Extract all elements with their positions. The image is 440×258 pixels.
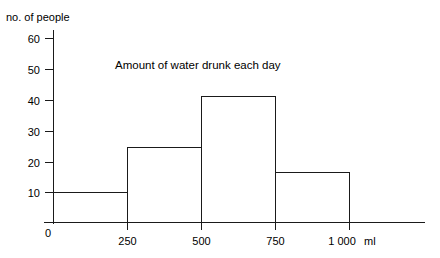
y-axis-tick-labels: 60 50 40 30 20 10 0	[28, 33, 51, 240]
chart-canvas: no. of people 60 50 40 30 20 10 0	[0, 0, 440, 258]
y-tick-label-30: 30	[28, 126, 40, 138]
y-tick-label-50: 50	[28, 64, 40, 76]
x-axis-tick-labels: 250 500 750 1 000 ml	[118, 235, 375, 247]
bar-series	[54, 97, 350, 223]
bar-750-1000	[276, 173, 350, 223]
bar-0-250	[54, 193, 128, 223]
y-tick-label-40: 40	[28, 95, 40, 107]
x-tick-label-250: 250	[118, 235, 136, 247]
x-tick-label-1000: 1 000	[328, 235, 356, 247]
chart-title: Amount of water drunk each day	[115, 59, 281, 71]
x-axis-unit-label: ml	[364, 235, 376, 247]
x-tick-label-750: 750	[266, 235, 284, 247]
histogram-chart: no. of people 60 50 40 30 20 10 0	[0, 0, 440, 258]
x-tick-label-500: 500	[192, 235, 210, 247]
bar-500-750	[202, 97, 276, 223]
y-tick-label-20: 20	[28, 157, 40, 169]
y-axis-title: no. of people	[6, 11, 70, 23]
bar-250-500	[128, 148, 202, 223]
y-axis-ticks	[45, 39, 54, 193]
y-tick-label-60: 60	[28, 33, 40, 45]
y-tick-label-0: 0	[45, 227, 51, 239]
y-tick-label-10: 10	[28, 187, 40, 199]
